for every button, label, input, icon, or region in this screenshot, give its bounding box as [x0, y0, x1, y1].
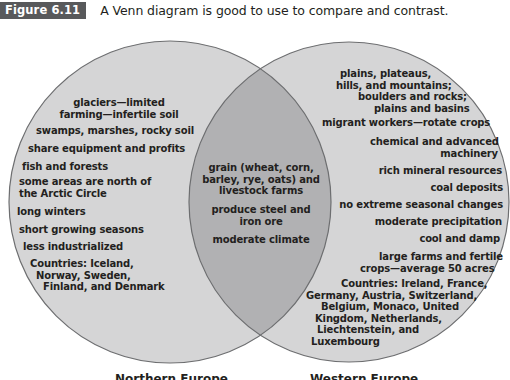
- right-line: plains, plateaus,: [330, 68, 470, 80]
- right-line: hills, and mountains;: [330, 80, 470, 92]
- left-item-long-winters: long winters: [17, 206, 86, 218]
- overlap-item-steel: produce steel and iron ore: [200, 204, 322, 227]
- northern-europe-label: Northern Europe: [115, 372, 228, 380]
- right-item-migrant-workers: migrant workers—rotate crops: [322, 117, 490, 129]
- right-line: plains and basins: [330, 103, 470, 115]
- left-line: glaciers—limited: [54, 97, 184, 109]
- right-item-seasonal: no extreme seasonal changes: [339, 199, 503, 211]
- right-item-mineral: rich mineral resources: [379, 165, 502, 177]
- left-item-swamps: swamps, marshes, rocky soil: [36, 125, 194, 137]
- right-item-countries: Countries: Ireland, France, Germany, Aus…: [306, 278, 466, 347]
- left-item-countries: Countries: Iceland, Norway, Sweden, Finl…: [28, 258, 158, 293]
- right-item-large-farms: large farms and fertile crops—average 50…: [360, 251, 490, 274]
- right-item-machinery: chemical and advanced machinery: [370, 136, 498, 159]
- overlap-item-climate: moderate climate: [200, 234, 322, 246]
- right-item-precipitation: moderate precipitation: [375, 216, 502, 228]
- right-line: Countries: Ireland, France,: [306, 278, 466, 290]
- overlap-line: grain (wheat, corn,: [200, 162, 322, 174]
- right-line: Germany, Austria, Switzerland,: [306, 290, 466, 302]
- left-item-fish-forests: fish and forests: [22, 161, 108, 173]
- left-item-glaciers: glaciers—limited farming—infertile soil: [54, 97, 184, 120]
- left-line: the Arctic Circle: [19, 188, 151, 200]
- right-line: boulders and rocks;: [330, 91, 470, 103]
- left-line: Norway, Sweden,: [28, 270, 158, 282]
- western-europe-label: Western Europe: [310, 372, 418, 380]
- right-line: crops—average 50 acres: [360, 263, 490, 275]
- left-item-short-seasons: short growing seasons: [19, 224, 144, 236]
- overlap-line: livestock farms: [200, 185, 322, 197]
- right-line: chemical and advanced: [370, 136, 498, 148]
- left-line: some areas are north of: [19, 176, 151, 188]
- left-item-arctic-circle: some areas are north of the Arctic Circl…: [19, 176, 151, 199]
- right-line: Belgium, Monaco, United: [306, 301, 466, 313]
- left-item-share-equipment: share equipment and profits: [28, 143, 185, 155]
- overlap-line: barley, rye, oats) and: [200, 174, 322, 186]
- right-line: Kingdom, Netherlands,: [306, 313, 466, 325]
- right-line: Liechtenstein, and: [306, 324, 466, 336]
- left-line: Countries: Iceland,: [28, 258, 158, 270]
- left-line: Finland, and Denmark: [28, 281, 158, 293]
- left-item-less-industrialized: less industrialized: [23, 241, 123, 253]
- overlap-line: produce steel and: [200, 204, 322, 216]
- overlap-line: iron ore: [200, 216, 322, 228]
- right-item-coal: coal deposits: [430, 182, 503, 194]
- right-line: Luxembourg: [306, 336, 466, 348]
- left-line: farming—infertile soil: [54, 109, 184, 121]
- right-item-terrain: plains, plateaus, hills, and mountains; …: [330, 68, 470, 114]
- right-item-cool-damp: cool and damp: [419, 233, 500, 245]
- right-line: machinery: [370, 148, 498, 160]
- overlap-item-grain: grain (wheat, corn, barley, rye, oats) a…: [200, 162, 322, 197]
- right-line: large farms and fertile: [360, 251, 490, 263]
